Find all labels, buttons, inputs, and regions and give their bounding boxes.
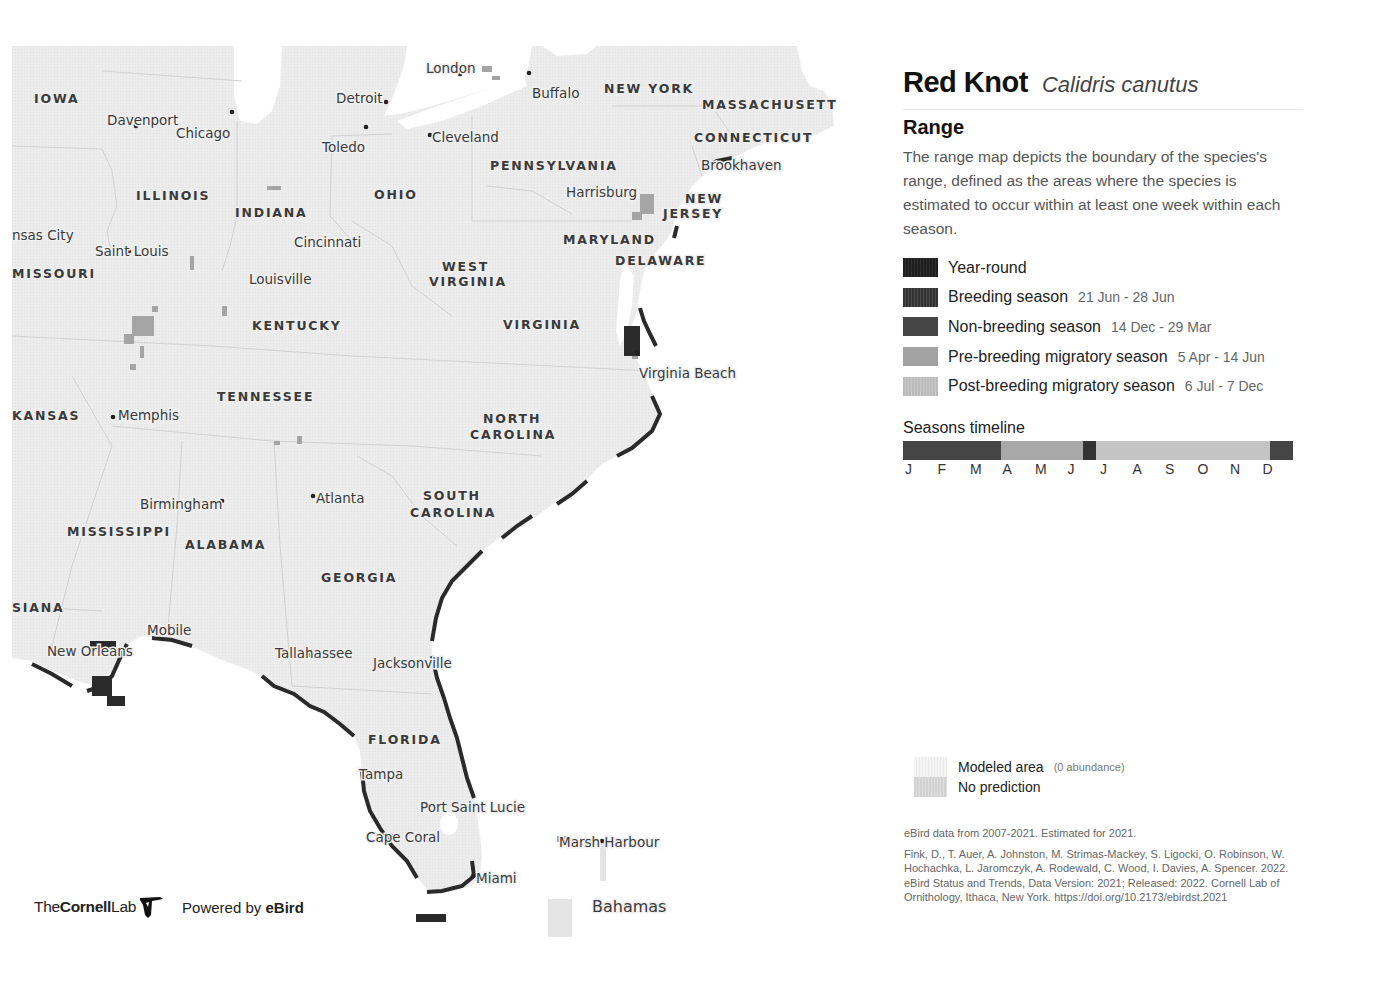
breeding-swatch: [903, 288, 938, 307]
city-label: Tallahassee: [274, 645, 353, 661]
legend-item-non-breeding: Non-breeding season 14 Dec - 29 Mar: [903, 312, 1303, 342]
city-label: Marsh Harbour: [559, 834, 660, 850]
state-label: CAROLINA: [410, 505, 496, 520]
city-marker-icon: [384, 100, 389, 105]
city-label: Detroit: [336, 90, 383, 106]
month-label: A: [1131, 461, 1164, 477]
timeline-title: Seasons timeline: [903, 419, 1303, 437]
citation: eBird data from 2007-2021. Estimated for…: [904, 826, 1304, 911]
state-label: ALABAMA: [185, 537, 266, 552]
city-label: Memphis: [118, 407, 179, 423]
legend-label: Non-breeding season: [948, 318, 1101, 336]
legend-dates: 21 Jun - 28 Jun: [1078, 289, 1175, 305]
city-label: Cincinnati: [294, 234, 361, 250]
state-label: MASSACHUSETTS: [702, 97, 837, 112]
modeled-area-item: Modeled area (0 abundance): [914, 757, 1125, 777]
year-round-swatch: [903, 258, 938, 277]
state-label: KENTUCKY: [252, 318, 342, 333]
timeline-segment-breeding: [1083, 441, 1096, 460]
legend-label: Breeding season: [948, 288, 1068, 306]
city-label: Toledo: [321, 139, 365, 155]
legend-item-pre-breeding: Pre-breeding migratory season 5 Apr - 14…: [903, 342, 1303, 372]
city-label: Birmingham: [140, 496, 222, 512]
state-label: OHIO: [374, 187, 418, 202]
state-label: PENNSYLVANIA: [490, 158, 618, 173]
state-label: SOUTH: [423, 488, 481, 503]
range-map[interactable]: IOWAILLINOISINDIANAOHIONEW YORKMASSACHUS…: [12, 46, 837, 941]
city-label: Chicago: [176, 125, 230, 141]
modeled-area-label: Modeled area: [958, 759, 1044, 775]
logo-the: The: [34, 898, 60, 916]
state-label: JERSEY: [662, 206, 723, 221]
state-label: VIRGINIA: [503, 317, 581, 332]
legend-label: Pre-breeding migratory season: [948, 348, 1168, 366]
city-label: Brookhaven: [701, 157, 782, 173]
species-scientific-name: Calidris canutus: [1042, 72, 1199, 98]
season-legend: Year-round Breeding season 21 Jun - 28 J…: [903, 253, 1303, 401]
state-label: NEW: [685, 191, 723, 206]
state-label: MISSISSIPPI: [67, 524, 171, 539]
range-description: The range map depicts the boundary of th…: [903, 145, 1301, 241]
lake-okeechobee: [440, 813, 458, 835]
city-label: London: [426, 60, 476, 76]
legend-dates: 14 Dec - 29 Mar: [1111, 319, 1211, 335]
modeled-area-swatch: [914, 757, 947, 777]
logo-lab: Lab: [111, 898, 136, 916]
timeline-segment-non-breeding: [903, 441, 1001, 460]
state-label: VIRGINIA: [429, 274, 507, 289]
state-label: DELAWARE: [615, 253, 706, 268]
powered-by-ebird[interactable]: Powered by eBird: [182, 899, 304, 916]
modeled-area-note: (0 abundance): [1054, 761, 1125, 773]
city-label: Buffalo: [532, 85, 579, 101]
timeline-segment-post-breeding: [1096, 441, 1269, 460]
map-footer: TheCornellLab Powered by eBird: [34, 895, 304, 919]
city-label: nsas City: [12, 227, 74, 243]
city-label: Saint Louis: [95, 243, 169, 259]
timeline-months: J F M A M J J A S O N D: [903, 461, 1293, 477]
legend-item-post-breeding: Post-breeding migratory season 6 Jul - 7…: [903, 371, 1303, 401]
city-marker-icon: [471, 874, 476, 879]
city-marker-icon: [364, 125, 369, 130]
city-label: Louisville: [249, 271, 311, 287]
state-label: KANSAS: [12, 408, 80, 423]
post-breeding-swatch: [903, 377, 938, 396]
city-marker-icon: [527, 71, 532, 76]
state-label: CAROLINA: [470, 427, 556, 442]
city-label: Harrisburg: [566, 184, 637, 200]
city-marker-icon: [311, 494, 316, 499]
cornell-lab-logo[interactable]: TheCornellLab: [34, 895, 164, 919]
state-label: NEW YORK: [604, 81, 694, 96]
month-label: N: [1228, 461, 1261, 477]
ebird-text: eBird: [265, 899, 303, 916]
month-label: D: [1261, 461, 1294, 477]
seasons-timeline-bar: [903, 441, 1293, 460]
legend-item-year-round: Year-round: [903, 253, 1303, 283]
range-map-canvas[interactable]: IOWAILLINOISINDIANAOHIONEW YORKMASSACHUS…: [12, 46, 837, 941]
range-heading: Range: [903, 116, 1303, 139]
non-breeding-swatch: [903, 317, 938, 336]
data-note: eBird data from 2007-2021. Estimated for…: [904, 826, 1304, 841]
month-label: O: [1196, 461, 1229, 477]
city-label: Virginia Beach: [639, 365, 736, 381]
city-marker-icon: [111, 415, 116, 420]
header-divider: [903, 109, 1303, 110]
legend-item-breeding: Breeding season 21 Jun - 28 Jun: [903, 283, 1303, 313]
legend-dates: 5 Apr - 14 Jun: [1178, 349, 1265, 365]
no-prediction-item: No prediction: [914, 777, 1125, 797]
no-prediction-label: No prediction: [958, 779, 1041, 795]
land-area: [12, 46, 834, 894]
city-label: Jacksonville: [372, 655, 452, 671]
state-label: FLORIDA: [368, 732, 442, 747]
state-label: MARYLAND: [563, 232, 656, 247]
state-label: MISSOURI: [12, 266, 96, 281]
city-label: Tampa: [358, 766, 403, 782]
no-prediction-swatch: [914, 777, 947, 797]
city-marker-icon: [635, 351, 640, 356]
timeline-segment-non-breeding: [1270, 441, 1293, 460]
city-label: Miami: [476, 870, 517, 886]
state-label: CONNECTICUT: [694, 130, 813, 145]
species-common-name: Red Knot: [903, 66, 1028, 99]
month-label: J: [903, 461, 936, 477]
state-label: SIANA: [12, 600, 64, 615]
city-label: Bahamas: [592, 897, 666, 916]
